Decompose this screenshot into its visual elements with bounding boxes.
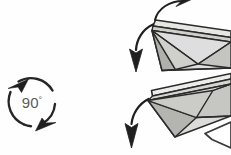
rotation-degree-glyph: °	[39, 95, 43, 105]
diagram-canvas: 90°	[0, 0, 231, 155]
lower-left-curved-arrow	[125, 99, 149, 148]
upper-left-arrow-head-icon	[130, 49, 143, 72]
lower-left-arrow-head-icon	[125, 124, 138, 149]
lower-left-arrow-shaft	[132, 99, 149, 124]
bottom-right-arrowhead-icon	[205, 122, 231, 148]
bottom-right-arrowhead	[205, 122, 231, 148]
upper-folded-module	[152, 20, 231, 71]
upper-left-arrow-shaft	[136, 25, 153, 51]
rotation-angle-label: 90°	[22, 94, 43, 111]
diagram-svg: 90°	[0, 0, 231, 155]
rotation-arc-path-bottom	[24, 125, 31, 127]
top-curved-arrow	[155, 0, 198, 20]
rotation-symbol-90: 90°	[8, 78, 56, 131]
upper-left-curved-arrow	[130, 25, 154, 73]
rotation-angle-number: 90	[22, 94, 39, 111]
